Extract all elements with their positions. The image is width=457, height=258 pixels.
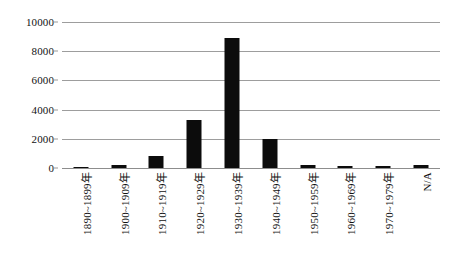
x-axis-tick-label: 1900~1909年: [119, 172, 131, 235]
bar-slot: [213, 22, 251, 168]
axis-baseline: [62, 168, 440, 169]
x-axis-tick-label: N/A: [421, 172, 433, 192]
y-axis-tick-mark: [52, 109, 58, 110]
y-axis-tick-label: 10000: [26, 17, 54, 28]
bar-slot: [251, 22, 289, 168]
x-axis-label-slot: 1890~1899年: [62, 170, 100, 258]
y-axis-tick-mark: [52, 22, 58, 23]
x-axis-label-slot: 1900~1909年: [100, 170, 138, 258]
x-axis-tick-label: 1910~1919年: [156, 172, 168, 235]
x-axis-label-slot: 1920~1929年: [175, 170, 213, 258]
bar-slot: [289, 22, 327, 168]
bar: [225, 38, 240, 168]
bar: [187, 120, 202, 168]
bar-slot: [327, 22, 365, 168]
bar-slot: [100, 22, 138, 168]
bar-slot: [175, 22, 213, 168]
bar: [414, 165, 429, 168]
y-axis-tick-label: 2000: [32, 133, 54, 144]
x-axis-label-slot: 1910~1919年: [138, 170, 176, 258]
y-axis-tick-label: 8000: [32, 46, 54, 57]
bar: [73, 167, 88, 169]
x-axis-label-slot: 1960~1969年: [327, 170, 365, 258]
x-axis-label-slot: 1950~1959年: [289, 170, 327, 258]
bar: [262, 139, 277, 168]
bar-slot: [62, 22, 100, 168]
bar-slot: [402, 22, 440, 168]
bar: [111, 165, 126, 168]
bar: [300, 165, 315, 168]
bar: [376, 166, 391, 168]
x-axis-tick-label: 1930~1939年: [232, 172, 244, 235]
bars-layer: [62, 22, 440, 168]
x-axis: 1890~1899年1900~1909年1910~1919年1920~1929年…: [62, 170, 440, 258]
bar: [338, 166, 353, 168]
y-axis-tick-mark: [52, 80, 58, 81]
x-axis-tick-label: 1920~1929年: [194, 172, 206, 235]
x-axis-label-slot: N/A: [402, 170, 440, 258]
bar-slot: [138, 22, 176, 168]
bar-chart: 0200040006000800010000 1890~1899年1900~19…: [0, 0, 457, 258]
y-axis-tick-mark: [52, 168, 58, 169]
x-axis-tick-label: 1940~1949年: [270, 172, 282, 235]
y-axis-tick-mark: [52, 138, 58, 139]
y-axis-tick-mark: [52, 51, 58, 52]
x-axis-label-slot: 1970~1979年: [364, 170, 402, 258]
bar-slot: [364, 22, 402, 168]
bar: [149, 156, 164, 168]
y-axis-tick-label: 6000: [32, 75, 54, 86]
y-axis: 0200040006000800010000: [0, 0, 58, 258]
x-axis-label-slot: 1940~1949年: [251, 170, 289, 258]
x-axis-tick-label: 1970~1979年: [383, 172, 395, 235]
y-axis-tick-label: 4000: [32, 104, 54, 115]
x-axis-tick-label: 1950~1959年: [308, 172, 320, 235]
x-axis-tick-label: 1890~1899年: [81, 172, 93, 235]
x-axis-label-slot: 1930~1939年: [213, 170, 251, 258]
plot-area: [62, 22, 440, 168]
x-axis-tick-label: 1960~1969年: [345, 172, 357, 235]
